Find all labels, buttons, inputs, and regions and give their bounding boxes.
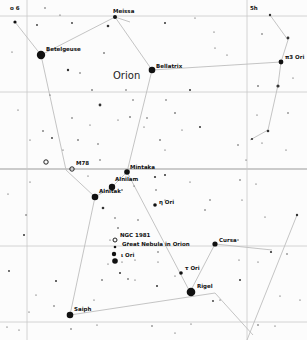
constellation-line bbox=[250, 15, 288, 140]
constellation-line bbox=[70, 197, 215, 315]
star-bellatrix[interactable] bbox=[149, 67, 156, 74]
star-meissa[interactable] bbox=[113, 15, 117, 19]
star-pi3-ori[interactable] bbox=[279, 60, 284, 65]
star-chart[interactable]: o 6 5h Meissa Betelgeuse Bellatrix Orion… bbox=[0, 0, 307, 340]
label-mintaka: Mintaka bbox=[130, 164, 155, 170]
label-iota-ori: ι Ori bbox=[121, 252, 134, 258]
label-betelgeuse: Betelgeuse bbox=[46, 46, 81, 53]
label-orion-nebula: Great Nebula in Orion bbox=[122, 241, 190, 247]
label-bellatrix: Bellatrix bbox=[156, 63, 183, 69]
star-saiph[interactable] bbox=[67, 312, 74, 319]
star-cursa[interactable] bbox=[212, 241, 217, 246]
star-o6[interactable] bbox=[13, 20, 16, 23]
label-eta-ori: η Ori bbox=[159, 199, 174, 206]
label-saiph: Saiph bbox=[74, 306, 91, 313]
label-pi3-ori: π3 Ori bbox=[285, 54, 304, 60]
star-eta-ori[interactable] bbox=[153, 203, 157, 207]
label-alnitak: Alnitak bbox=[99, 188, 121, 194]
label-rigel: Rigel bbox=[197, 283, 213, 290]
star-cluster-icon[interactable] bbox=[44, 160, 48, 164]
label-cursa: Cursa bbox=[219, 237, 237, 243]
star-betelgeuse[interactable] bbox=[37, 51, 45, 59]
star-rigel[interactable] bbox=[187, 288, 196, 297]
orion-nebula-icon[interactable] bbox=[114, 246, 117, 249]
label-alnilam: Alnilam bbox=[115, 176, 139, 182]
label-tau-ori: τ Ori bbox=[185, 265, 200, 271]
sky-map-canvas: o 6 5h Meissa Betelgeuse Bellatrix Orion… bbox=[0, 0, 307, 340]
star-iota-ori[interactable] bbox=[112, 252, 116, 256]
label-ngc1981: NGC 1981 bbox=[120, 232, 151, 238]
star-alnitak[interactable] bbox=[92, 194, 99, 201]
constellation-line bbox=[247, 215, 297, 340]
corner-label-top-left: o 6 bbox=[10, 5, 20, 11]
star-iota-ori-2[interactable] bbox=[112, 258, 118, 264]
label-m78: M78 bbox=[76, 160, 89, 166]
constellation-line bbox=[127, 70, 152, 172]
ngc1981-cluster-icon[interactable] bbox=[113, 238, 117, 242]
background-stars bbox=[6, 7, 300, 333]
label-meissa: Meissa bbox=[113, 8, 135, 14]
constellation-name: Orion bbox=[113, 70, 140, 81]
star-mintaka[interactable] bbox=[124, 169, 130, 175]
corner-label-top-right: 5h bbox=[250, 5, 258, 11]
star-tau-ori[interactable] bbox=[179, 271, 183, 275]
